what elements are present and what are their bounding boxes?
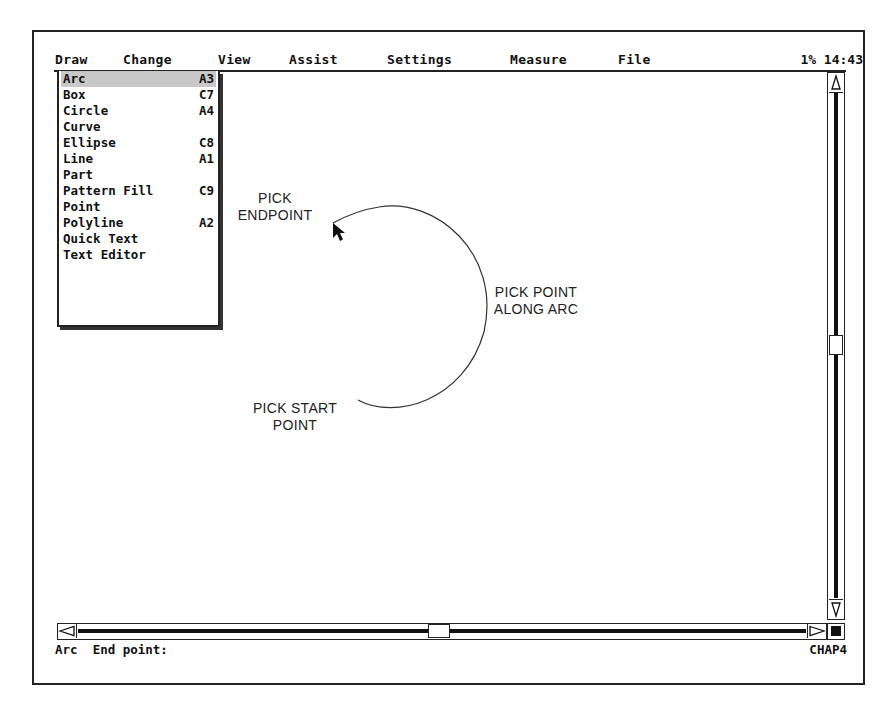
menu-assist[interactable]: Assist [289,52,338,67]
menu-change[interactable]: Change [123,52,172,67]
item-label: Curve [63,119,101,135]
vertical-scrollbar[interactable] [827,72,845,620]
menu-item-polyline[interactable]: PolylineA2 [61,215,216,231]
arrow-up-icon [829,74,843,92]
menu-draw[interactable]: Draw [55,52,88,67]
scroll-right-button[interactable] [807,624,826,638]
menu-item-line[interactable]: LineA1 [61,151,216,167]
menu-item-arc[interactable]: ArcA3 [61,71,216,87]
item-shortcut: C9 [199,183,214,199]
annotation-start-line1: PICK START [239,400,351,417]
item-label: Quick Text [63,231,138,247]
status-line: Arc End point: CHAP4 [55,642,847,660]
cursor-arrow-icon [333,223,345,241]
item-label: Box [63,87,86,103]
item-label: Pattern Fill [63,183,153,199]
menu-item-box[interactable]: BoxC7 [61,87,216,103]
menu-item-ellipse[interactable]: EllipseC8 [61,135,216,151]
item-label: Circle [63,103,108,119]
menu-settings[interactable]: Settings [387,52,452,67]
menu-bar: Draw Change View Assist Settings Measure… [55,52,863,70]
menu-file[interactable]: File [618,52,651,67]
menu-item-pattern-fill[interactable]: Pattern FillC9 [61,183,216,199]
menu-item-text-editor[interactable]: Text Editor [61,247,216,263]
item-shortcut: C7 [199,87,214,103]
item-shortcut: A4 [199,103,214,119]
horizontal-scroll-thumb[interactable] [428,624,450,638]
annotation-along-arc: PICK POINT ALONG ARC [480,284,592,318]
item-label: Line [63,151,93,167]
scroll-down-button[interactable] [829,599,843,618]
menu-item-part[interactable]: Part [61,167,216,183]
file-name: CHAP4 [809,642,847,657]
item-label: Point [63,199,101,215]
horizontal-scrollbar[interactable] [57,623,827,640]
item-label: Polyline [63,215,123,231]
scroll-up-button[interactable] [829,74,843,93]
annotation-along-arc-line2: ALONG ARC [480,301,592,318]
item-shortcut: A2 [199,215,214,231]
menu-item-circle[interactable]: CircleA4 [61,103,216,119]
memory-clock-status: 1% 14:43 [800,52,863,67]
scroll-corner-box[interactable] [827,623,845,640]
item-label: Ellipse [63,135,116,151]
draw-dropdown-menu: ArcA3 BoxC7 CircleA4 Curve EllipseC8 Lin… [57,71,220,327]
item-shortcut: A3 [199,71,214,87]
annotation-endpoint-line1: PICK [230,190,320,207]
item-label: Part [63,167,93,183]
arrow-right-icon [808,624,826,638]
menu-item-point[interactable]: Point [61,199,216,215]
arc-curve [333,206,487,408]
annotation-endpoint: PICK ENDPOINT [230,190,320,224]
vertical-scroll-thumb[interactable] [829,335,843,355]
item-shortcut: A1 [199,151,214,167]
menu-item-quick-text[interactable]: Quick Text [61,231,216,247]
arrow-left-icon [58,624,76,638]
scroll-left-button[interactable] [58,624,77,638]
command-prompt: Arc End point: [55,642,168,657]
menu-view[interactable]: View [218,52,251,67]
annotation-start-line2: POINT [239,417,351,434]
item-shortcut: C8 [199,135,214,151]
annotation-start-point: PICK START POINT [239,400,351,434]
annotation-endpoint-line2: ENDPOINT [230,207,320,224]
item-label: Text Editor [63,247,146,263]
item-label: Arc [63,71,86,87]
menu-measure[interactable]: Measure [510,52,567,67]
annotation-along-arc-line1: PICK POINT [480,284,592,301]
arrow-down-icon [829,600,843,618]
menu-item-curve[interactable]: Curve [61,119,216,135]
square-filled-icon [831,626,841,636]
